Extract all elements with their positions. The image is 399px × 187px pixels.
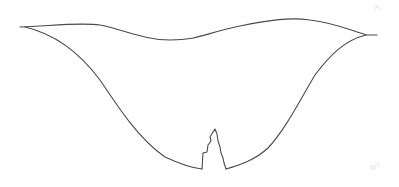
top-edge-line: [20, 19, 377, 40]
faint-mark-bottom-right: ᴍᵀ: [370, 163, 380, 172]
outer-right-line: [226, 35, 366, 169]
sketch-canvas: [0, 0, 399, 187]
spike-line: [202, 129, 226, 169]
faint-mark-top-right: A: [374, 3, 380, 12]
outer-left-line: [25, 27, 202, 169]
